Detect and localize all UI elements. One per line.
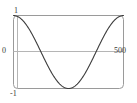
y-axis-max-label: 1 <box>14 7 18 15</box>
y-axis-zero-label: 0 <box>2 47 6 55</box>
y-axis-min-label: -1 <box>10 90 17 98</box>
x-axis-max-label: 500 <box>114 47 126 55</box>
plot-container: 1 0 -1 500 <box>0 0 137 103</box>
